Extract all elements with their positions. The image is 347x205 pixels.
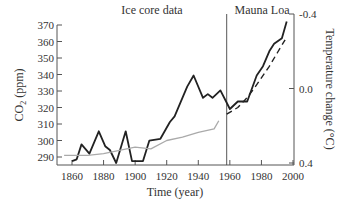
x-tick-label: 1940 xyxy=(187,170,210,182)
co2-temperature-chart: 2903003103203303403503603701860188019001… xyxy=(0,0,347,205)
x-tick-label: 1900 xyxy=(124,170,147,182)
x-axis-title: Time (year) xyxy=(147,185,204,199)
y-right-axis-title: Temperature change (°C) xyxy=(323,28,337,149)
ice-core-label: Ice core data xyxy=(121,3,183,17)
y-tick-label: 320 xyxy=(38,102,55,114)
right-tick-label: 0.4 xyxy=(299,157,313,169)
x-tick-label: 1880 xyxy=(93,170,116,182)
y-tick-label: 370 xyxy=(38,19,55,31)
labels-group: 2903003103203303403503603701860188019001… xyxy=(12,3,337,199)
y-tick-label: 350 xyxy=(38,52,55,64)
y-tick-label: 340 xyxy=(38,69,55,81)
axes xyxy=(57,14,294,165)
x-tick-label: 1860 xyxy=(61,170,84,182)
y-axis-title: CO2 (ppm) xyxy=(12,68,28,121)
right-tick-label: 0.0 xyxy=(299,83,313,95)
y-tick-label: 300 xyxy=(38,135,55,147)
right-tick-label: -0.4 xyxy=(299,8,317,20)
x-tick-label: 1960 xyxy=(219,170,242,182)
x-tick-label: 1920 xyxy=(156,170,179,182)
x-tick-label: 2000 xyxy=(282,170,305,182)
x-tick-label: 1980 xyxy=(250,170,273,182)
series-temperature-change xyxy=(72,22,287,164)
y-tick-label: 310 xyxy=(38,118,55,130)
mauna-loa-label: Mauna Loa xyxy=(235,3,291,17)
y-tick-label: 290 xyxy=(38,151,55,163)
series-group xyxy=(64,22,287,164)
y-tick-label: 360 xyxy=(38,36,55,48)
y-tick-label: 330 xyxy=(38,85,55,97)
